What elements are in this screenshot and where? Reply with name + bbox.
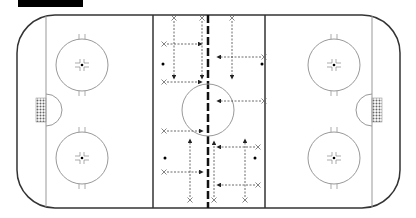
player-x-icon — [243, 198, 248, 203]
puck-icon — [261, 63, 264, 66]
hash-mark — [327, 160, 332, 164]
hash-mark — [327, 67, 332, 71]
hash-mark — [84, 152, 89, 156]
player-x-icon — [172, 16, 177, 21]
faceoff-dot — [333, 157, 336, 160]
player-x-icon — [212, 198, 217, 203]
faceoff-dot — [333, 64, 336, 67]
faceoff-dot — [81, 64, 84, 67]
hash-mark — [75, 67, 80, 71]
crease-left — [46, 94, 62, 126]
goal-net-right — [372, 98, 382, 122]
player-x-icon — [162, 42, 167, 47]
puck-icon — [254, 157, 257, 160]
hash-mark — [336, 59, 341, 63]
hash-mark — [84, 160, 89, 164]
hash-mark — [84, 67, 89, 71]
crease-right — [356, 94, 372, 126]
faceoff-dot — [81, 157, 84, 160]
hockey-rink — [0, 0, 416, 218]
hash-mark — [84, 59, 89, 63]
hash-mark — [327, 152, 332, 156]
hash-mark — [327, 59, 332, 63]
hash-mark — [336, 67, 341, 71]
puck-icon — [162, 63, 165, 66]
player-x-icon — [162, 129, 167, 134]
hash-mark — [336, 152, 341, 156]
player-x-icon — [162, 170, 167, 175]
hash-mark — [75, 152, 80, 156]
goal-net-left — [36, 98, 46, 122]
player-x-icon — [256, 145, 261, 150]
hash-mark — [75, 160, 80, 164]
player-x-icon — [256, 183, 261, 188]
player-x-icon — [162, 80, 167, 85]
hash-mark — [75, 59, 80, 63]
hash-mark — [336, 160, 341, 164]
puck-icon — [164, 157, 167, 160]
player-x-icon — [230, 16, 235, 21]
player-x-icon — [200, 16, 205, 21]
player-x-icon — [188, 198, 193, 203]
